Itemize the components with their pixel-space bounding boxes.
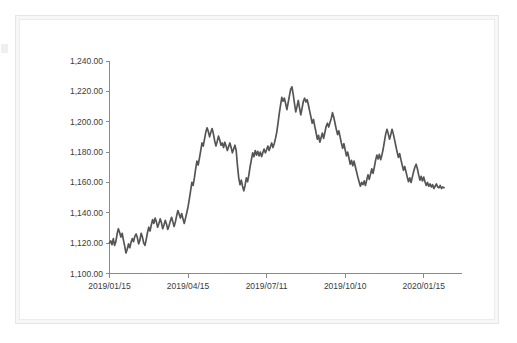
y-tick-label: 1,220.00 <box>70 86 103 96</box>
x-tick-label: 2019/07/11 <box>246 281 288 291</box>
y-tick-label: 1,180.00 <box>70 147 103 157</box>
y-tick-label: 1,140.00 <box>70 208 103 218</box>
y-tick-label: 1,120.00 <box>70 238 103 248</box>
x-tick-label: 2019/04/15 <box>167 281 210 291</box>
x-axis-tick-marks <box>110 274 424 278</box>
y-tick-label: 1,100.00 <box>70 269 103 279</box>
line-chart: 1,240.001,220.001,200.001,180.001,160.00… <box>20 20 496 321</box>
y-tick-label: 1,160.00 <box>70 177 103 187</box>
x-tick-label: 2019/01/15 <box>88 281 131 291</box>
y-axis-tick-labels: 1,240.001,220.001,200.001,180.001,160.00… <box>70 56 103 279</box>
price-series-line <box>110 87 445 253</box>
x-tick-label: 2020/01/15 <box>402 281 445 291</box>
y-axis-tick-marks <box>106 61 110 274</box>
x-tick-label: 2019/10/10 <box>324 281 367 291</box>
cropped-edge-mark <box>1 44 8 53</box>
x-axis-tick-labels: 2019/01/152019/04/152019/07/112019/10/10… <box>88 281 445 291</box>
y-tick-label: 1,200.00 <box>70 117 103 127</box>
chart-card: 1,240.001,220.001,200.001,180.001,160.00… <box>19 19 495 320</box>
y-tick-label: 1,240.00 <box>70 56 103 66</box>
